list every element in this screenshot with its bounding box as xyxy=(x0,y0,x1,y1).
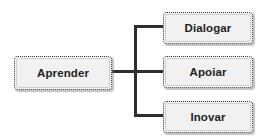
node-child-apoiar-label: Apoiar xyxy=(189,66,226,78)
diagram-canvas: Aprender Dialogar Apoiar Inovar xyxy=(0,0,268,140)
node-root[interactable]: Aprender xyxy=(14,56,112,90)
node-child-dialogar[interactable]: Dialogar xyxy=(163,12,253,44)
node-child-apoiar[interactable]: Apoiar xyxy=(163,56,253,88)
node-child-inovar[interactable]: Inovar xyxy=(163,101,253,133)
node-child-inovar-label: Inovar xyxy=(190,111,225,123)
node-root-label: Aprender xyxy=(37,67,89,79)
node-child-dialogar-label: Dialogar xyxy=(185,22,232,34)
